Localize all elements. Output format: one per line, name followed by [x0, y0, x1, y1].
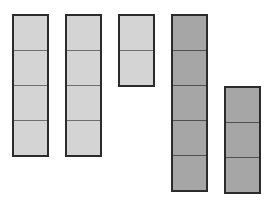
block-column-1	[12, 14, 49, 157]
block-cell	[67, 50, 100, 85]
block-column-4	[171, 14, 208, 192]
block-cell	[173, 155, 206, 190]
block-cell	[173, 85, 206, 120]
block-cell	[226, 122, 259, 157]
block-cell	[120, 16, 153, 50]
block-cell	[14, 85, 47, 120]
block-cell	[173, 120, 206, 155]
block-column-2	[65, 14, 102, 157]
block-cell	[67, 85, 100, 120]
block-column-5	[224, 86, 261, 194]
block-cell	[173, 50, 206, 85]
block-cell	[226, 88, 259, 122]
block-cell	[67, 16, 100, 50]
block-cell	[67, 120, 100, 155]
block-cell	[120, 50, 153, 85]
block-cell	[173, 16, 206, 50]
block-cell	[14, 50, 47, 85]
block-cell	[14, 120, 47, 155]
block-cell	[14, 16, 47, 50]
block-column-3	[118, 14, 155, 87]
block-cell	[226, 157, 259, 192]
